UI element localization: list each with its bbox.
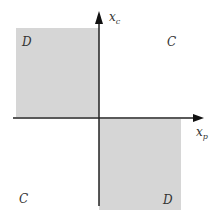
y-axis-arrow-icon xyxy=(95,11,103,24)
quadrant-label-bottom-left: C xyxy=(19,192,28,206)
quadrant-label-top-right: C xyxy=(167,35,176,49)
axes xyxy=(0,0,218,223)
y-axis-label: xc xyxy=(109,10,120,26)
x-axis-arrow-icon xyxy=(193,114,204,122)
quadrant-label-top-left: D xyxy=(22,35,32,49)
quadrant-label-bottom-right: D xyxy=(163,193,173,207)
x-axis-label: xp xyxy=(196,125,208,141)
